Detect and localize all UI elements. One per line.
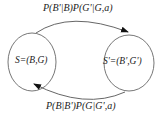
state-label-s-prime: S'=(B',G'): [103, 57, 142, 67]
state-label-s: S=(B,G): [15, 56, 48, 66]
edge-label-forward: P(B'|B)P(G'|G,a): [43, 3, 112, 13]
edge-label-backward: P(B|B')P(G|G',a): [46, 101, 115, 111]
transition-arrow-s-to-s-prime: [36, 21, 128, 33]
transition-arrow-s-prime-to-s: [34, 84, 125, 99]
